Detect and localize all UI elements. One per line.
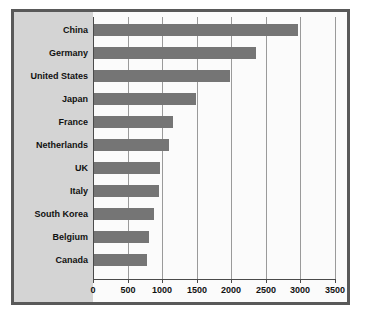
category-label: South Korea bbox=[0, 203, 93, 226]
category-label: Italy bbox=[0, 180, 93, 203]
bar-track bbox=[94, 134, 348, 157]
bar-track bbox=[94, 180, 348, 203]
bar-track bbox=[94, 111, 348, 134]
bar-track bbox=[94, 65, 348, 88]
bar[interactable] bbox=[94, 93, 196, 105]
x-tick-label: 1500 bbox=[187, 285, 207, 295]
bar-row: Netherlands bbox=[93, 134, 347, 157]
bar-row: South Korea bbox=[93, 203, 347, 226]
x-tick-label: 2500 bbox=[256, 285, 276, 295]
bar[interactable] bbox=[94, 185, 159, 197]
category-label: Belgium bbox=[0, 226, 93, 249]
bar-row: Germany bbox=[93, 42, 347, 65]
tick-mark-1000 bbox=[162, 279, 163, 283]
bar[interactable] bbox=[94, 162, 160, 174]
bar[interactable] bbox=[94, 231, 149, 243]
bar[interactable] bbox=[94, 139, 169, 151]
bar-track bbox=[94, 19, 348, 42]
bar[interactable] bbox=[94, 47, 256, 59]
category-label: Netherlands bbox=[0, 134, 93, 157]
tick-mark-500 bbox=[128, 279, 129, 283]
x-axis-tick-labels: 0500100015002000250030003500 bbox=[93, 285, 347, 299]
x-tick-label: 2000 bbox=[221, 285, 241, 295]
bar-rows: ChinaGermanyUnited StatesJapanFranceNeth… bbox=[93, 19, 347, 272]
bar-row: UK bbox=[93, 157, 347, 180]
tick-mark-1500 bbox=[197, 279, 198, 283]
tick-mark-2500 bbox=[266, 279, 267, 283]
tick-mark-2000 bbox=[231, 279, 232, 283]
bar-row: Italy bbox=[93, 180, 347, 203]
category-label: United States bbox=[0, 65, 93, 88]
x-tick-label: 1000 bbox=[152, 285, 172, 295]
x-tick-label: 3000 bbox=[290, 285, 310, 295]
bar-row: Belgium bbox=[93, 226, 347, 249]
category-label: UK bbox=[0, 157, 93, 180]
category-label: Germany bbox=[0, 42, 93, 65]
chart-inner: ChinaGermanyUnited StatesJapanFranceNeth… bbox=[14, 12, 347, 302]
bar-track bbox=[94, 226, 348, 249]
bar-row: France bbox=[93, 111, 347, 134]
plot-area: ChinaGermanyUnited StatesJapanFranceNeth… bbox=[93, 12, 347, 302]
bar[interactable] bbox=[94, 70, 230, 82]
bar-track bbox=[94, 42, 348, 65]
category-label: China bbox=[0, 19, 93, 42]
tick-mark-3000 bbox=[300, 279, 301, 283]
bar-row: United States bbox=[93, 65, 347, 88]
bar[interactable] bbox=[94, 24, 298, 36]
bar-track bbox=[94, 88, 348, 111]
chart-frame: ChinaGermanyUnited StatesJapanFranceNeth… bbox=[11, 9, 350, 305]
x-tick-label: 500 bbox=[120, 285, 135, 295]
x-tick-label: 3500 bbox=[325, 285, 345, 295]
tick-mark-0 bbox=[93, 279, 94, 283]
bar[interactable] bbox=[94, 254, 147, 266]
bar[interactable] bbox=[94, 116, 173, 128]
bar-row: Japan bbox=[93, 88, 347, 111]
bar-track bbox=[94, 249, 348, 272]
bar-track bbox=[94, 157, 348, 180]
category-label: Canada bbox=[0, 249, 93, 272]
tick-mark-3500 bbox=[335, 279, 336, 283]
x-tick-label: 0 bbox=[90, 285, 95, 295]
category-label: France bbox=[0, 111, 93, 134]
bar[interactable] bbox=[94, 208, 154, 220]
category-label: Japan bbox=[0, 88, 93, 111]
bar-track bbox=[94, 203, 348, 226]
bar-row: China bbox=[93, 19, 347, 42]
bar-row: Canada bbox=[93, 249, 347, 272]
